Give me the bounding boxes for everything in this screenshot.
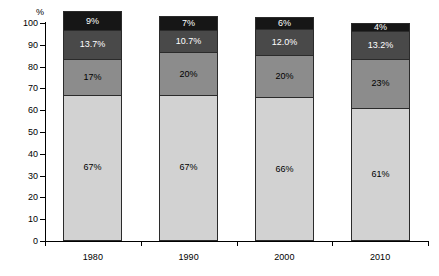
bar-segment-label: 10.7%	[176, 37, 202, 46]
y-axis-tick-label: 30	[4, 172, 38, 181]
y-axis-tick-label-wrap: 0	[0, 237, 38, 246]
bar-segment-label: 13.2%	[368, 41, 394, 50]
x-axis-label-2010: 2010	[345, 252, 415, 262]
bar-segment-label: 20%	[179, 70, 197, 79]
y-axis-tick-label-wrap: 30	[0, 172, 38, 181]
y-axis-tick-label: 100	[4, 19, 38, 28]
x-axis-tick	[428, 241, 429, 246]
plot-area: 9%13.7%17%67%7%10.7%20%67%6%12.0%20%66%4…	[45, 23, 427, 241]
bar-segment-label: 7%	[182, 19, 195, 28]
bar-segment-segment-4-top: 7%	[159, 16, 218, 31]
bar-segment-label: 13.7%	[80, 40, 106, 49]
y-axis-tick-label: 70	[4, 84, 38, 93]
bar-segment-segment-4-top: 9%	[63, 11, 122, 31]
bar-segment-segment-1-bottom: 66%	[255, 97, 314, 241]
y-axis-tick-label-wrap: 90	[0, 41, 38, 50]
bar-segment-segment-3: 13.2%	[351, 31, 410, 60]
y-axis-tick-label-wrap: 40	[0, 150, 38, 159]
y-axis-unit-label: %	[36, 7, 44, 17]
y-axis-tick-label-wrap: 10	[0, 215, 38, 224]
bar-segment-label: 23%	[371, 79, 389, 88]
bar-segment-label: 6%	[278, 19, 291, 28]
x-axis-tick	[332, 241, 333, 246]
bar-segment-label: 67%	[179, 163, 197, 172]
y-axis-tick-label: 40	[4, 150, 38, 159]
bar-1980: 9%13.7%17%67%	[63, 11, 122, 241]
bar-segment-segment-1-bottom: 67%	[159, 95, 218, 241]
bar-2000: 6%12.0%20%66%	[255, 17, 314, 241]
bar-segment-label: 9%	[86, 17, 99, 26]
x-axis-label-1990: 1990	[154, 252, 224, 262]
bar-segment-label: 61%	[371, 170, 389, 179]
bar-segment-segment-3: 13.7%	[63, 30, 122, 60]
y-axis-tick-label: 60	[4, 106, 38, 115]
bar-segment-label: 20%	[275, 72, 293, 81]
bar-segment-label: 12.0%	[272, 38, 298, 47]
stacked-bar-chart: % 0102030405060708090100 9%13.7%17%67%7%…	[0, 0, 439, 276]
bar-1990: 7%10.7%20%67%	[159, 16, 218, 241]
y-axis-tick-label-wrap: 100	[0, 19, 38, 28]
y-axis-tick-label: 80	[4, 63, 38, 72]
bar-segment-label: 66%	[275, 165, 293, 174]
y-axis-tick-label: 50	[4, 128, 38, 137]
y-axis-tick-label-wrap: 80	[0, 63, 38, 72]
y-axis-tick-label-wrap: 60	[0, 106, 38, 115]
bar-segment-segment-2: 17%	[63, 59, 122, 96]
bar-segment-segment-1-bottom: 67%	[63, 95, 122, 241]
x-axis-tick	[237, 241, 238, 246]
x-axis-label-1980: 1980	[58, 252, 128, 262]
y-axis-tick-label-wrap: 20	[0, 193, 38, 202]
bar-2010: 4%13.2%23%61%	[351, 23, 410, 241]
y-axis-tick-label: 90	[4, 41, 38, 50]
bar-segment-segment-2: 20%	[159, 52, 218, 96]
y-axis-tick-label: 10	[4, 215, 38, 224]
y-axis-tick-label: 20	[4, 193, 38, 202]
bar-segment-segment-3: 12.0%	[255, 29, 314, 55]
x-axis-label-2000: 2000	[249, 252, 319, 262]
bar-segment-label: 67%	[83, 163, 101, 172]
y-axis-tick-label-wrap: 70	[0, 84, 38, 93]
x-axis-tick	[141, 241, 142, 246]
y-axis-tick-label-wrap: 50	[0, 128, 38, 137]
x-axis-tick	[45, 241, 46, 246]
bar-segment-label: 17%	[83, 73, 101, 82]
bar-segment-segment-1-bottom: 61%	[351, 108, 410, 241]
bar-segment-segment-2: 23%	[351, 59, 410, 109]
bar-segment-segment-3: 10.7%	[159, 30, 218, 53]
y-axis-tick-label: 0	[4, 237, 38, 246]
bar-segment-segment-2: 20%	[255, 55, 314, 99]
